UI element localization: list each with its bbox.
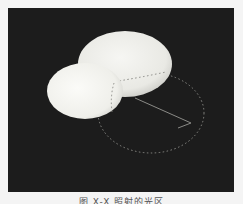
light-spot-illustration (8, 8, 234, 192)
figure-panel (8, 8, 234, 192)
small-light-spot (47, 63, 123, 119)
figure-caption: 图 X-X 照射的光区 (0, 196, 243, 204)
radius-line-end (178, 123, 191, 128)
radius-line (135, 98, 191, 123)
